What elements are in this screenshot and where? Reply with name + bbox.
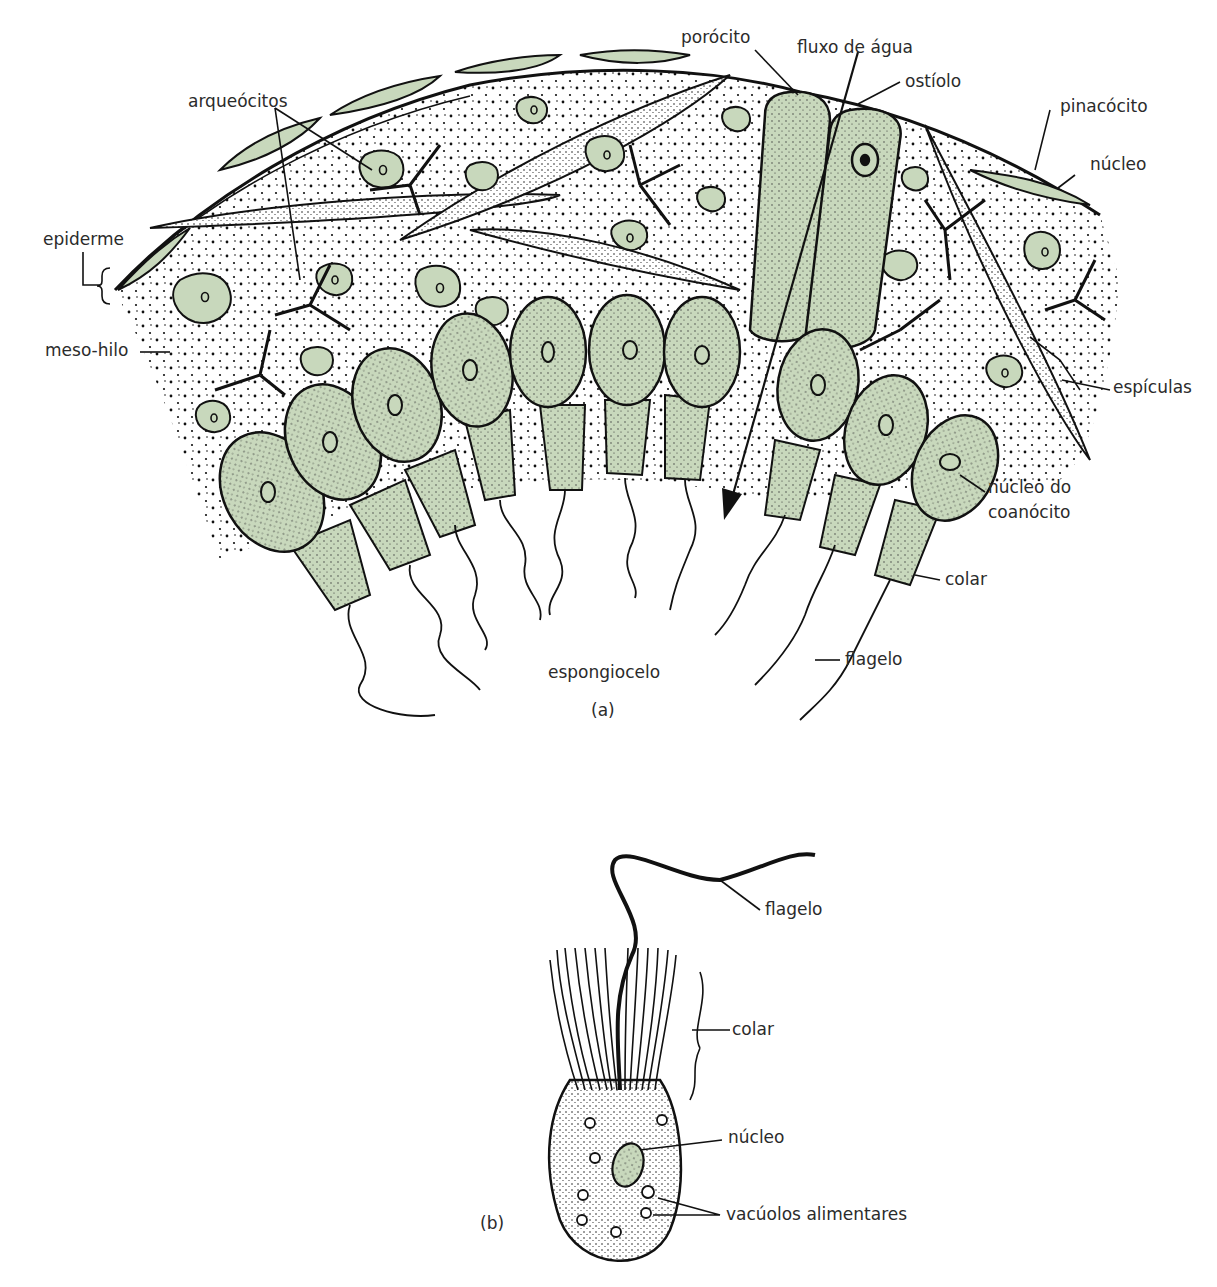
label-mesohyl: meso-hilo (45, 341, 128, 361)
label-epidermis: epiderme (43, 230, 124, 250)
label-choanocyte-nucleus-2: coanócito (988, 503, 1070, 523)
label-collar-b: colar (732, 1020, 774, 1040)
label-flagellum-b: flagelo (765, 900, 823, 920)
label-food-vacuoles: vacúolos alimentares (726, 1205, 907, 1225)
label-ostium: ostíolo (905, 72, 961, 92)
label-porocyte: porócito (681, 28, 750, 48)
label-pinacocyte: pinacócito (1060, 97, 1148, 117)
caption-b: (b) (480, 1213, 504, 1233)
label-nucleus-b: núcleo (728, 1128, 784, 1148)
illustration (0, 0, 1217, 1287)
porocyte (750, 92, 901, 349)
label-water-flow: fluxo de água (797, 38, 913, 58)
sponge-diagram: porócito fluxo de água ostíolo arqueócit… (0, 0, 1217, 1287)
label-archaeocytes: arqueócitos (188, 92, 288, 112)
label-collar-a: colar (945, 570, 987, 590)
label-nucleus-a: núcleo (1090, 155, 1146, 175)
label-spongocoel: espongiocelo (548, 663, 660, 683)
caption-a: (a) (591, 700, 615, 720)
label-spicules: espículas (1113, 378, 1192, 398)
label-choanocyte-nucleus-1: núcleo do (988, 478, 1071, 498)
label-flagellum-a: flagelo (845, 650, 903, 670)
